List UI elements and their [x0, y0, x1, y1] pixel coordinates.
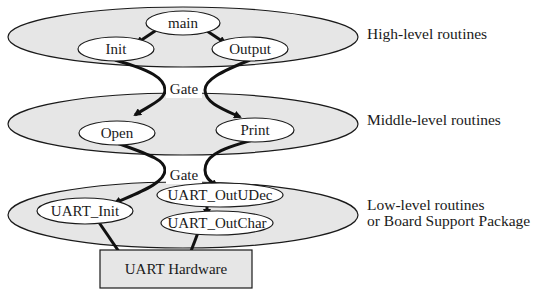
layer-middle-label: Middle-level routines [367, 111, 501, 128]
layered-architecture-diagram: Gate Gate main Init Output Open Print UA… [0, 0, 536, 293]
layer-middle-ellipse [8, 93, 358, 155]
node-output-label: Output [229, 41, 272, 57]
node-uart-init-label: UART_Init [51, 203, 120, 219]
gate-label-bottom: Gate [170, 167, 199, 183]
node-print-label: Print [240, 122, 270, 138]
layer-high-label: High-level routines [367, 25, 487, 42]
node-open-label: Open [101, 125, 134, 141]
gate-label-top: Gate [170, 81, 199, 97]
node-uart-outchar-label: UART_OutChar [167, 215, 266, 231]
uart-hardware-label: UART Hardware [125, 261, 228, 277]
node-main-label: main [168, 15, 198, 31]
node-uart-outudec-label: UART_OutUDec [168, 187, 273, 203]
node-init-label: Init [106, 41, 128, 57]
layer-low-label-line1: Low-level routines [367, 196, 485, 213]
layer-low-label-line2: or Board Support Package [367, 212, 530, 229]
